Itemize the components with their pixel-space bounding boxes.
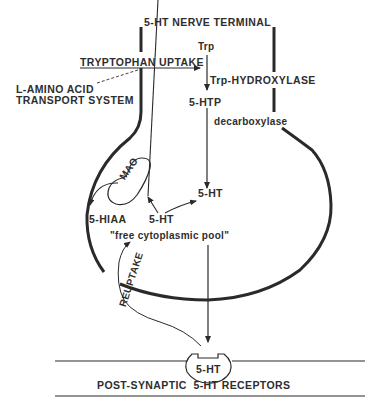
pool-5ht-to-mao-arrow (148, 197, 158, 213)
pool-5ht-label: 5-HT (149, 214, 174, 225)
pool-to-5ht-arrow (165, 201, 196, 213)
transport-system-label-line2: TRANSPORT SYSTEM (16, 95, 134, 106)
5ht-to-mao-arrow (148, 0, 158, 196)
transport-leader-line (97, 69, 141, 83)
postsynaptic-receptors-label: POST-SYNAPTIC 5-HT RECEPTORS (97, 380, 290, 391)
receptor-5ht-label: 5-HT (196, 364, 221, 375)
transport-system-label-line1: L-AMINO ACID (16, 84, 94, 95)
nerve-terminal-title: 5-HT NERVE TERMINAL (144, 17, 271, 28)
trp-hydroxylase-label: Trp-HYDROXYLASE (210, 75, 316, 86)
5hiaa-label: 5-HIAA (89, 214, 126, 225)
5ht-vesicle-label: 5-HT (198, 188, 223, 199)
5htp-label: 5-HTP (189, 97, 221, 108)
free-cytoplasmic-pool-label: "free cytoplasmic pool" (110, 231, 229, 241)
decarboxylase-label: decarboxylase (214, 117, 287, 127)
tryptophan-uptake-label: TRYPTOPHAN UPTAKE (80, 57, 204, 68)
trp-label: Trp (198, 42, 214, 52)
